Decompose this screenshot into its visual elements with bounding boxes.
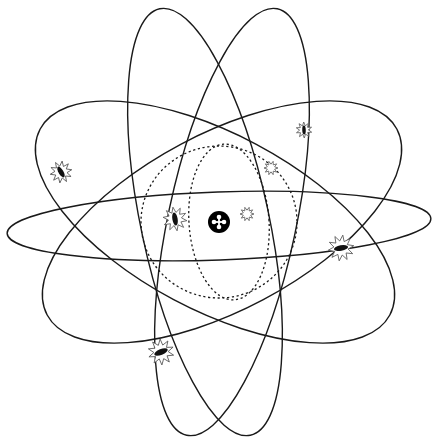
orbit-tilt-left-steep: [97, 0, 313, 442]
atom-illustration: [0, 0, 438, 442]
nucleus: [208, 211, 230, 233]
electron-starburst-left-icon: [46, 157, 75, 187]
electrons: [46, 122, 356, 369]
atom-diagram: [0, 0, 438, 442]
orbit-tilt-right-steep: [124, 0, 340, 442]
electron-starburst-inner-right-icon: [240, 207, 254, 220]
electron-starburst-inner-top-right-icon: [264, 161, 278, 174]
